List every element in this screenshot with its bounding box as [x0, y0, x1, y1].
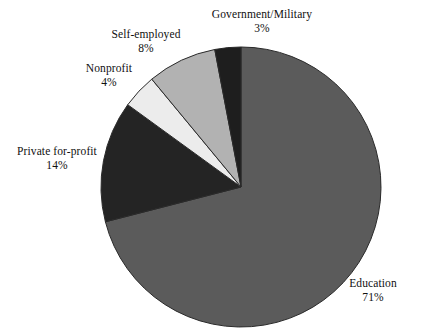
slice-label-private-for-profit: Private for-profit 14% — [2, 145, 112, 172]
slice-label-self-employed: Self-employed 8% — [92, 28, 200, 55]
slice-label-education-name: Education — [330, 277, 416, 291]
slice-label-education: Education 71% — [330, 277, 416, 304]
slice-label-nonprofit: Nonprofit 4% — [63, 62, 155, 89]
slice-label-self-employed-value: 8% — [92, 42, 200, 56]
pie-chart: Government/Military 3% Self-employed 8% … — [0, 0, 421, 335]
slice-label-nonprofit-name: Nonprofit — [63, 62, 155, 76]
slice-label-education-value: 71% — [330, 291, 416, 305]
slice-label-government-military-value: 3% — [196, 22, 328, 36]
slice-label-government-military-name: Government/Military — [196, 8, 328, 22]
slice-label-government-military: Government/Military 3% — [196, 8, 328, 35]
slice-label-nonprofit-value: 4% — [63, 76, 155, 90]
slice-label-private-for-profit-name: Private for-profit — [2, 145, 112, 159]
slice-label-private-for-profit-value: 14% — [2, 159, 112, 173]
slice-label-self-employed-name: Self-employed — [92, 28, 200, 42]
